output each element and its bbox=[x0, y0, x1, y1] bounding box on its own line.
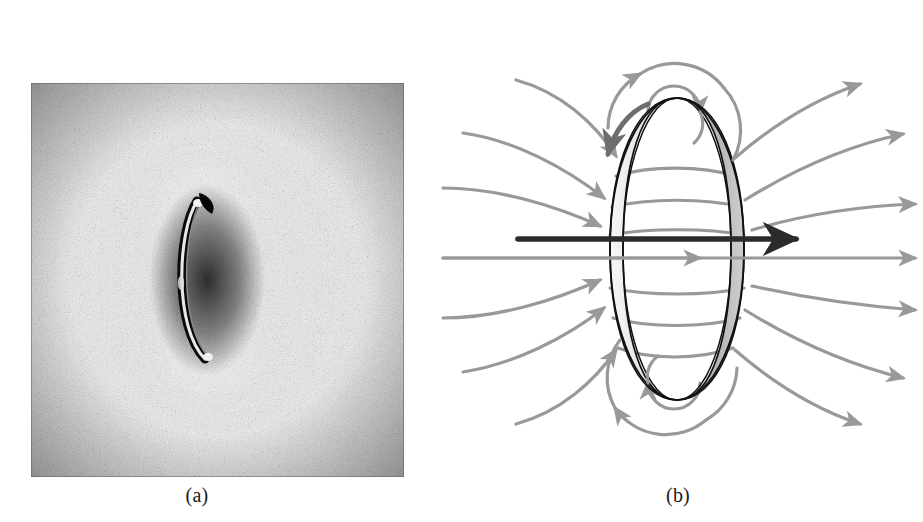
caption-panel-b: (b) bbox=[666, 484, 690, 507]
iron-filings-photo bbox=[31, 83, 404, 477]
panel-b-schematic: B I μ bbox=[433, 0, 923, 470]
figure-magnetic-field-of-current-loop: (a) bbox=[0, 0, 923, 522]
field-lines-front bbox=[443, 80, 915, 424]
iron-filings-image bbox=[31, 83, 404, 477]
current-loop bbox=[610, 98, 744, 400]
panel-a-photograph bbox=[31, 83, 404, 477]
caption-panel-a: (a) bbox=[186, 484, 209, 507]
field-line-diagram bbox=[433, 0, 923, 470]
